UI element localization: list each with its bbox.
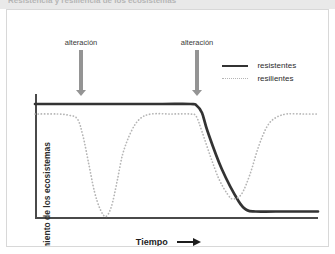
chart-legend: resistentes resilientes [222, 56, 296, 82]
y-axis-title: Funcionamiento de los ecosistemas [42, 125, 52, 247]
x-axis-arrow-icon [177, 238, 201, 246]
down-arrow-icon-shaft-1 [79, 50, 83, 90]
legend-swatch-dotted-icon [222, 75, 248, 83]
figure-title-strip: Resistencia y resiliencia de los ecosist… [0, 0, 335, 9]
plot-area: Funcionamiento de los ecosistemas [35, 94, 318, 219]
series-resilientes [35, 114, 318, 217]
legend-item-resilientes: resilientes [222, 69, 296, 82]
x-axis-title-wrap: Tiempo [7, 232, 329, 247]
down-arrow-icon-shaft-2 [195, 50, 199, 90]
chart-panel: alteración alteración resistentes resili… [6, 9, 329, 247]
x-axis-title: Tiempo [136, 237, 168, 247]
chart-curves [35, 94, 318, 219]
legend-item-resistentes: resistentes [222, 56, 296, 69]
legend-label-resilientes: resilientes [257, 74, 293, 83]
annotation-label-1: alteración [65, 38, 98, 47]
figure-container: Resistencia y resiliencia de los ecosist… [0, 0, 335, 254]
annotation-label-2: alteración [181, 38, 214, 47]
figure-title: Resistencia y resiliencia de los ecosist… [8, 0, 176, 5]
